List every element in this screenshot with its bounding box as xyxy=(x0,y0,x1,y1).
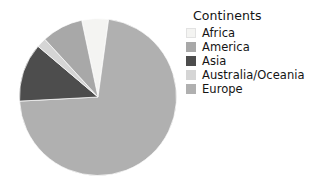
legend-label: Europe xyxy=(202,83,243,96)
legend-swatch-america xyxy=(186,42,196,52)
pie-slices xyxy=(20,19,177,176)
pie-chart-figure: Continents AfricaAmericaAsiaAustralia/Oc… xyxy=(0,0,310,189)
legend-swatch-europe xyxy=(186,84,196,94)
legend-label: Australia/Oceania xyxy=(202,69,305,82)
legend-label: Asia xyxy=(202,55,226,68)
legend-swatch-australia-oceania xyxy=(186,70,196,80)
legend-swatch-asia xyxy=(186,56,196,66)
pie-chart xyxy=(19,17,177,179)
legend-item: Australia/Oceania xyxy=(186,68,310,82)
legend-item: Africa xyxy=(186,26,310,40)
legend-item: America xyxy=(186,40,310,54)
legend-label: Africa xyxy=(202,27,235,40)
legend-items: AfricaAmericaAsiaAustralia/OceaniaEurope xyxy=(186,26,310,96)
chart-legend: Continents AfricaAmericaAsiaAustralia/Oc… xyxy=(186,9,310,96)
pie-chart-svg xyxy=(19,17,177,179)
legend-item: Europe xyxy=(186,82,310,96)
legend-label: America xyxy=(202,41,250,54)
legend-title: Continents xyxy=(193,9,310,23)
legend-item: Asia xyxy=(186,54,310,68)
legend-swatch-africa xyxy=(186,28,196,38)
